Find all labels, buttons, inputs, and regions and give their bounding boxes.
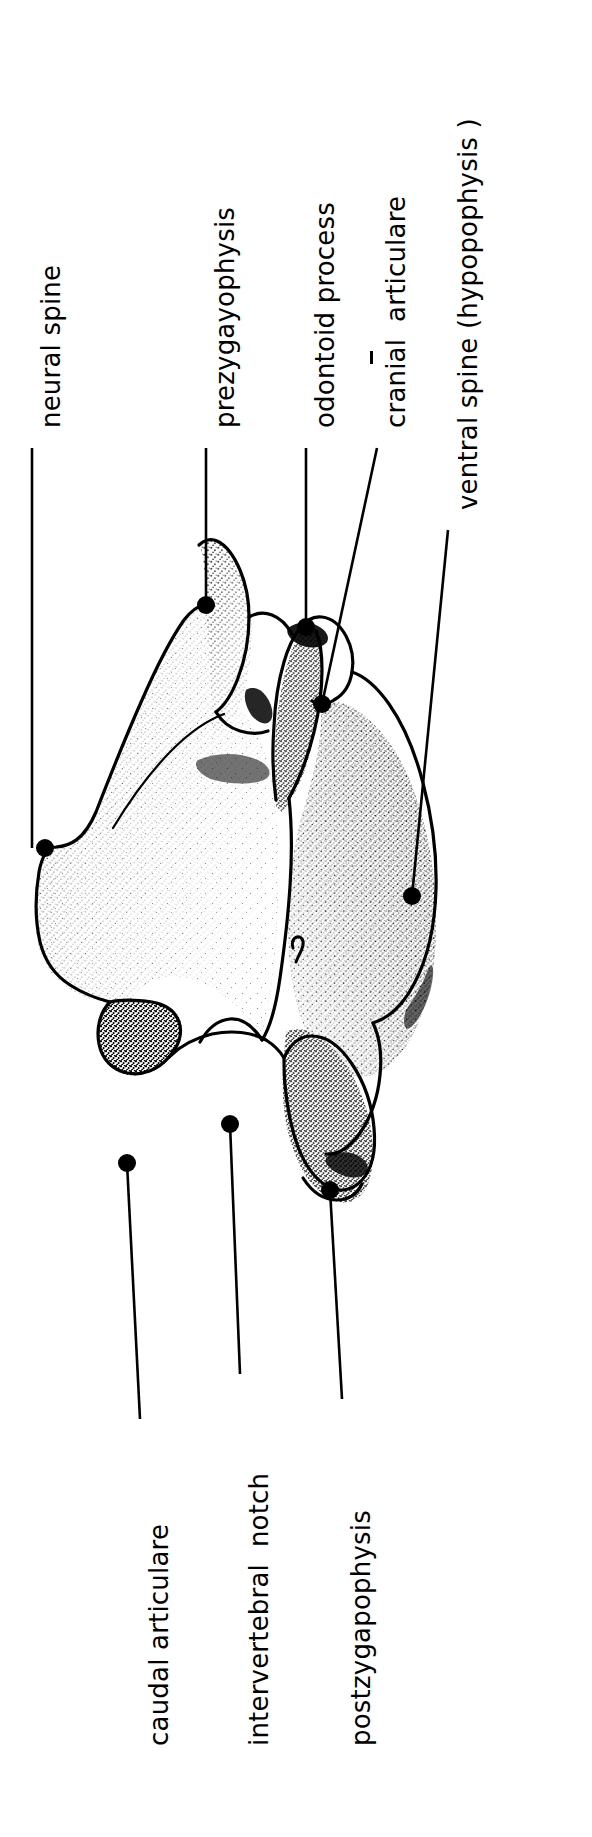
cranial-articulare-divider-mark bbox=[370, 351, 373, 364]
leader-dot-odontoid-process bbox=[297, 618, 315, 636]
label-postzygapophysis: postzygapophysis bbox=[348, 1510, 374, 1746]
leader-line-postzygapophysis bbox=[330, 1190, 342, 1399]
vertebra-illustration bbox=[0, 0, 592, 1837]
leader-line-caudal-articulare bbox=[127, 1163, 140, 1419]
leader-dot-ventral-spine bbox=[403, 887, 421, 905]
label-neural-spine: neural spine bbox=[38, 265, 64, 428]
ventral-margin-left bbox=[169, 1032, 284, 1058]
leader-dot-neural-spine bbox=[36, 839, 54, 857]
label-odontoid-process: odontoid process bbox=[312, 202, 338, 428]
label-caudal-articulare: caudal articulare bbox=[146, 1524, 172, 1746]
arch-odontoid-notch bbox=[249, 613, 292, 634]
leader-dot-caudal-articulare bbox=[118, 1154, 136, 1172]
leader-dot-prezygayophysis bbox=[197, 596, 215, 614]
label-prezygayophysis: prezygayophysis bbox=[212, 207, 238, 428]
label-cranial-articulare: cranial articulare bbox=[383, 196, 409, 428]
label-ventral-spine: ventral spine (hypopophysis ) bbox=[455, 118, 481, 510]
leader-line-intervertebral-notch bbox=[230, 1124, 240, 1374]
bone-mass bbox=[20, 530, 450, 1220]
leader-dot-intervertebral-notch bbox=[221, 1115, 239, 1133]
leader-dot-postzygapophysis bbox=[321, 1181, 339, 1199]
leader-dot-cranial-articulare bbox=[313, 695, 331, 713]
label-intervertebral-notch: intervertebral notch bbox=[246, 1473, 272, 1746]
leader-line-ventral-spine bbox=[412, 530, 448, 896]
leader-line-cranial-articulare bbox=[322, 448, 377, 704]
